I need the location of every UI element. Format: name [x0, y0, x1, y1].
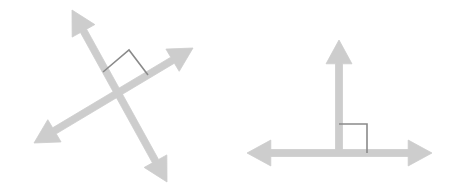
geometry-figure-canvas: [0, 0, 457, 193]
canvas-background: [0, 0, 457, 193]
